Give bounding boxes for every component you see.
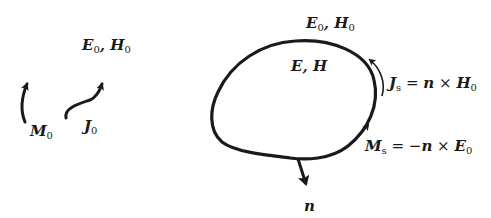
svg-text:E0, H0: E0, H0 <box>305 14 355 33</box>
surface-electric-current-label: Js = n × H0 <box>386 74 477 93</box>
normal-vector-label: n <box>304 197 315 215</box>
magnetic-source-arrow-icon <box>22 84 27 122</box>
svg-text:J0: J0 <box>81 117 97 136</box>
electric-source-arrow-icon <box>66 84 102 118</box>
electric-source-label: J0 <box>81 117 97 136</box>
svg-text:Js = n × H0: Js = n × H0 <box>386 74 477 93</box>
svg-text:M0: M0 <box>29 122 53 141</box>
svg-text:E0, H0: E0, H0 <box>81 36 131 55</box>
svg-text:Ms = −n × E0: Ms = −n × E0 <box>364 137 472 156</box>
svg-text:E, H: E, H <box>290 57 328 75</box>
outside-field-label: E0, H0 <box>305 14 355 33</box>
equivalence-principle-diagram: E0, H0 M0 J0 E0, H0 E, H Js = n × H0 Ms … <box>0 0 491 218</box>
magnetic-source-label: M0 <box>29 122 53 141</box>
inside-field-label: E, H <box>290 57 328 75</box>
left-field-label: E0, H0 <box>81 36 131 55</box>
normal-vector-arrow-icon <box>298 159 306 184</box>
surface-magnetic-current-label: Ms = −n × E0 <box>364 137 472 156</box>
